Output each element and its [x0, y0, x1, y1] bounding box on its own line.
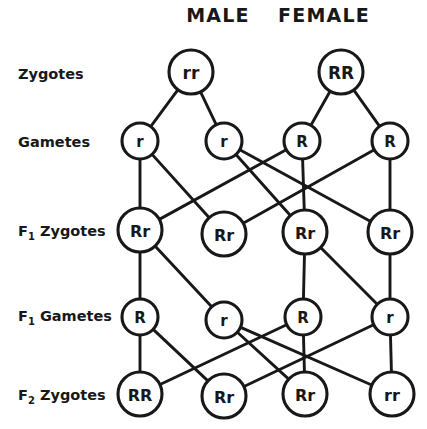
- genotype-label: rr: [183, 63, 200, 83]
- node-f1-gametes-2[interactable]: r: [206, 302, 242, 338]
- genotype-label: r: [220, 312, 228, 330]
- node-gametes-4[interactable]: R: [372, 123, 408, 159]
- genotype-label: r: [386, 309, 394, 327]
- row-label-f1-gametes: F1 Gametes: [18, 308, 112, 327]
- node-zygotes-2[interactable]: RR: [319, 50, 363, 94]
- inheritance-edge: [303, 158, 305, 211]
- genotype-label: R: [384, 133, 396, 151]
- inheritance-edge: [320, 247, 378, 305]
- genotype-label: R: [296, 133, 308, 151]
- genetics-cross-diagram: rrRRrrRRRrRrRrRrRrRrRRRrRrrr MALEFEMALE …: [0, 0, 427, 429]
- genotype-label: Rr: [380, 224, 400, 243]
- genotype-label: Rr: [295, 224, 315, 243]
- node-gametes-1[interactable]: r: [122, 123, 158, 159]
- column-header-male: MALE: [186, 4, 250, 26]
- column-header-layer: MALEFEMALE: [186, 4, 370, 26]
- node-f2-zygotes-2[interactable]: Rr: [202, 374, 246, 418]
- node-f2-zygotes-4[interactable]: rr: [370, 372, 414, 416]
- node-zygotes-1[interactable]: rr: [169, 50, 213, 94]
- genotype-label: RR: [328, 63, 354, 83]
- diagram-canvas: rrRRrrRRRrRrRrRrRrRrRRRrRrrr MALEFEMALE …: [0, 0, 427, 429]
- genotype-label: Rr: [130, 222, 150, 241]
- node-f2-zygotes-3[interactable]: Rr: [283, 372, 327, 416]
- genotype-label: Rr: [214, 226, 234, 245]
- row-label-zygotes: Zygotes: [18, 66, 84, 82]
- genotype-label: R: [134, 309, 146, 327]
- row-label-f2-zygotes: F2 Zygotes: [18, 387, 106, 406]
- node-f1-zygotes-3[interactable]: Rr: [283, 210, 327, 254]
- genotype-label: RR: [128, 386, 153, 405]
- node-f1-zygotes-2[interactable]: Rr: [202, 212, 246, 256]
- inheritance-edge: [390, 334, 391, 373]
- node-gametes-2[interactable]: r: [206, 123, 242, 159]
- row-label-gametes: Gametes: [18, 134, 90, 150]
- inheritance-edge: [154, 245, 212, 307]
- genotype-label: r: [220, 133, 228, 151]
- node-f1-gametes-1[interactable]: R: [122, 299, 158, 335]
- genotype-label: rr: [384, 386, 400, 405]
- inheritance-edge: [310, 90, 330, 126]
- node-f1-zygotes-4[interactable]: Rr: [368, 210, 412, 254]
- genotype-label: R: [297, 309, 309, 327]
- genotype-label: r: [136, 133, 144, 151]
- node-gametes-3[interactable]: R: [284, 123, 320, 159]
- node-layer: rrRRrrRRRrRrRrRrRrRrRRRrRrrr: [118, 50, 414, 418]
- inheritance-edge: [353, 89, 380, 127]
- inheritance-edge: [150, 89, 178, 127]
- genotype-label: Rr: [214, 388, 234, 407]
- node-f1-gametes-4[interactable]: r: [372, 299, 408, 335]
- row-label-layer: ZygotesGametesF1 ZygotesF1 GametesF2 Zyg…: [18, 66, 112, 406]
- inheritance-edge: [200, 91, 217, 126]
- edge-layer: [140, 89, 391, 387]
- node-f1-zygotes-1[interactable]: Rr: [118, 208, 162, 252]
- inheritance-edge: [303, 334, 304, 373]
- column-header-female: FEMALE: [278, 4, 370, 26]
- inheritance-edge: [303, 253, 304, 300]
- node-f2-zygotes-1[interactable]: RR: [118, 372, 162, 416]
- row-label-f1-zygotes: F1 Zygotes: [18, 223, 106, 242]
- genotype-label: Rr: [295, 386, 315, 405]
- node-f1-gametes-3[interactable]: R: [285, 299, 321, 335]
